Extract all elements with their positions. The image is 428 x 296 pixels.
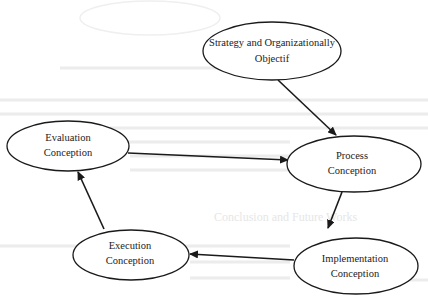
- node-process-label-line2: Conception: [328, 165, 377, 176]
- node-execution-label-line2: Conception: [106, 255, 155, 266]
- node-implementation: Implementation Conception: [294, 238, 418, 294]
- node-implementation-label-line2: Conception: [331, 268, 380, 279]
- node-strategy: Strategy and Organizationally Objectif: [203, 22, 341, 80]
- node-process-label-line1: Process: [336, 150, 368, 161]
- node-evaluation-label-line2: Conception: [44, 147, 93, 158]
- diagram-canvas: Conclusion and Future Works Strategy and…: [0, 0, 428, 296]
- node-process: Process Conception: [287, 136, 421, 192]
- edge-implementation-to-execution: [190, 254, 294, 260]
- background-heading: Conclusion and Future Works: [214, 210, 357, 224]
- node-execution: Execution Conception: [73, 230, 189, 280]
- node-evaluation: Evaluation Conception: [7, 121, 129, 171]
- node-execution-label-line1: Execution: [109, 240, 152, 251]
- node-implementation-label-line1: Implementation: [322, 253, 389, 264]
- node-strategy-label-line1: Strategy and Organizationally: [209, 37, 336, 48]
- node-strategy-label-line2: Objectif: [255, 53, 290, 64]
- node-evaluation-label-line1: Evaluation: [45, 132, 91, 143]
- edge-execution-to-evaluation: [78, 172, 104, 229]
